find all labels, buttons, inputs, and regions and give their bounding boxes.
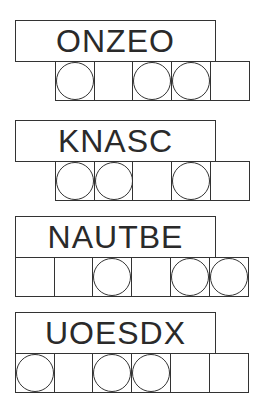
answer-cell-circled[interactable] [55,161,95,201]
circle-marker-icon [133,62,171,100]
answer-cell[interactable] [54,353,94,393]
puzzle-1: ONZEO [0,20,275,120]
puzzle-3: NAUTBE [0,216,275,316]
answer-cell-circled[interactable] [92,257,132,297]
answer-cell[interactable] [209,353,249,393]
answer-cell-circled[interactable] [131,353,171,393]
answer-cells [15,257,249,297]
circle-marker-icon [56,162,94,200]
circle-marker-icon [56,62,94,100]
circle-marker-icon [172,62,210,100]
answer-cell-circled[interactable] [170,257,210,297]
circle-marker-icon [16,354,54,392]
scrambled-word: UOESDX [15,312,216,354]
circle-marker-icon [132,354,170,392]
answer-cell-circled[interactable] [94,161,134,201]
circle-marker-icon [93,258,131,296]
answer-cell-circled[interactable] [132,61,172,101]
puzzle-4: UOESDX [0,312,275,412]
answer-cell[interactable] [131,257,171,297]
scrambled-word: KNASC [15,120,216,162]
circle-marker-icon [172,162,210,200]
answer-cell[interactable] [210,61,250,101]
answer-cell[interactable] [132,161,172,201]
answer-cell-circled[interactable] [15,353,55,393]
answer-cell[interactable] [15,257,55,297]
answer-cells [55,161,250,201]
scrambled-word: NAUTBE [15,216,216,258]
answer-cells [55,61,250,101]
circle-marker-icon [95,162,133,200]
answer-cell-circled[interactable] [171,161,211,201]
answer-cell-circled[interactable] [55,61,95,101]
answer-cell-circled[interactable] [92,353,132,393]
circle-marker-icon [171,258,209,296]
circle-marker-icon [93,354,131,392]
answer-cell[interactable] [210,161,250,201]
answer-cells [15,353,249,393]
circle-marker-icon [210,258,248,296]
answer-cell-circled[interactable] [209,257,249,297]
answer-cell-circled[interactable] [171,61,211,101]
answer-cell[interactable] [170,353,210,393]
answer-cell[interactable] [94,61,134,101]
answer-cell[interactable] [54,257,94,297]
puzzle-2: KNASC [0,120,275,220]
scrambled-word: ONZEO [15,20,216,62]
